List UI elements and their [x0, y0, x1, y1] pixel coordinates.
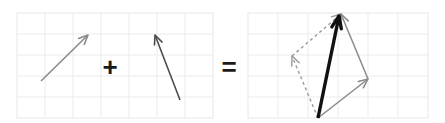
equals-operator: = [221, 52, 236, 82]
resultant-vectors [292, 14, 368, 118]
vector-vector-a [41, 35, 88, 81]
vector-vector-b [154, 35, 180, 100]
vector-vector-b-solid [341, 14, 368, 79]
vector-shaft-vector-b [155, 35, 180, 100]
vector-addition-diagram: + = [0, 0, 445, 123]
vector-shaft-vector-b-dashed [292, 56, 318, 118]
plus-operator: + [102, 52, 117, 82]
vector-shaft-vector-a [41, 35, 88, 81]
vector-addition-figure: + = [0, 0, 445, 123]
vector-vector-b-dashed [292, 56, 318, 118]
arrowhead-vector-b-dashed [292, 56, 300, 66]
vector-shaft-vector-b-solid [341, 14, 368, 79]
